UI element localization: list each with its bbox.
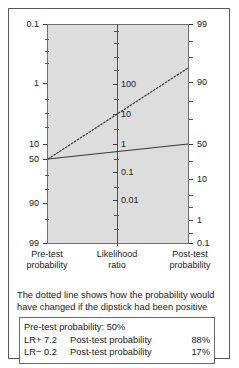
figure-caption: The dotted line shows how the probabilit… (17, 289, 225, 313)
results-posttest-value-positive: 88% (187, 334, 210, 347)
positive-dipstick-line (48, 68, 188, 159)
results-table: Pre-test probability: 50% LR+ 7.2 Post-t… (19, 317, 215, 364)
axis-caption-pretest: Pre-test probability (15, 249, 79, 271)
nomogram-lines (9, 9, 231, 259)
axis-caption-lr-line2: ratio (85, 260, 149, 271)
results-posttest-value-negative: 17% (187, 346, 210, 359)
results-lr-negative: LR− 0.2 (24, 346, 70, 359)
axis-caption-posttest-line1: Post-test (157, 249, 223, 260)
fagan-nomogram-figure: 0.1 1 10 50 90 99 100 (0, 0, 239, 368)
axis-caption-pretest-line2: probability (15, 260, 79, 271)
axis-caption-posttest: Post-test probability (157, 249, 223, 271)
results-posttest-label-negative: Post-test probability (70, 346, 187, 359)
axis-caption-posttest-line2: probability (157, 260, 223, 271)
axis-caption-pretest-line1: Pre-test (15, 249, 79, 260)
results-pretest-text: Pre-test probability: 50% (24, 321, 125, 334)
results-posttest-label-positive: Post-test probability (70, 334, 187, 347)
table-row: LR− 0.2 Post-test probability 17% (24, 346, 210, 359)
axis-caption-lr-line1: Likelihood (85, 249, 149, 260)
table-row: LR+ 7.2 Post-test probability 88% (24, 334, 210, 347)
nomogram-plot: 0.1 1 10 50 90 99 100 (9, 9, 231, 259)
results-lr-positive: LR+ 7.2 (24, 334, 70, 347)
negative-dipstick-line (48, 144, 188, 159)
figure-frame: 0.1 1 10 50 90 99 100 (8, 8, 230, 359)
results-pretest-row: Pre-test probability: 50% (24, 321, 210, 334)
axis-caption-likelihood-ratio: Likelihood ratio (85, 249, 149, 271)
